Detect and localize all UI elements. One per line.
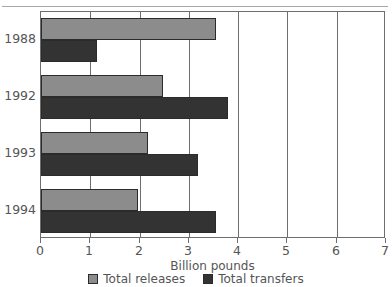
legend-label-total-transfers: Total transfers bbox=[218, 272, 303, 286]
x-tick-label-2: 2 bbox=[127, 243, 151, 258]
bar-1992-total-transfers bbox=[41, 97, 228, 119]
bar-1994-total-releases bbox=[41, 189, 138, 211]
y-axis-label-1994: 1994 bbox=[0, 202, 36, 217]
bar-chart-figure: 1988199219931994 01234567 Billion pounds… bbox=[0, 0, 392, 287]
legend-swatch-total-transfers bbox=[203, 274, 213, 284]
x-tick-label-5: 5 bbox=[274, 243, 298, 258]
y-axis-category-labels: 1988199219931994 bbox=[0, 11, 40, 238]
top-divider-rule bbox=[2, 6, 388, 7]
bar-1992-total-releases bbox=[41, 75, 163, 97]
x-tick-label-0: 0 bbox=[28, 243, 52, 258]
legend-item-total-transfers: Total transfers bbox=[203, 272, 303, 286]
chart-legend: Total releases Total transfers bbox=[0, 272, 392, 286]
bar-group-1993 bbox=[41, 126, 384, 183]
bar-1988-total-transfers bbox=[41, 40, 97, 62]
x-tick-label-7: 7 bbox=[373, 243, 392, 258]
bar-1993-total-transfers bbox=[41, 154, 198, 176]
legend-swatch-total-releases bbox=[88, 274, 98, 284]
x-axis-title: Billion pounds bbox=[40, 259, 385, 273]
bar-1988-total-releases bbox=[41, 18, 216, 40]
bar-group-1992 bbox=[41, 69, 384, 126]
bar-1993-total-releases bbox=[41, 132, 148, 154]
x-tick-label-1: 1 bbox=[77, 243, 101, 258]
x-axis-tick-labels: 01234567 bbox=[40, 243, 385, 259]
legend-label-total-releases: Total releases bbox=[103, 272, 185, 286]
y-axis-label-1992: 1992 bbox=[0, 88, 36, 103]
x-tick-label-4: 4 bbox=[225, 243, 249, 258]
bar-group-1988 bbox=[41, 12, 384, 69]
legend-item-total-releases: Total releases bbox=[88, 272, 185, 286]
y-axis-label-1988: 1988 bbox=[0, 31, 36, 46]
bar-series-container bbox=[41, 12, 384, 237]
x-tick-label-6: 6 bbox=[324, 243, 348, 258]
bar-1994-total-transfers bbox=[41, 211, 216, 233]
bar-group-1994 bbox=[41, 182, 384, 239]
y-axis-label-1993: 1993 bbox=[0, 145, 36, 160]
plot-area bbox=[40, 11, 385, 238]
x-tick-label-3: 3 bbox=[176, 243, 200, 258]
